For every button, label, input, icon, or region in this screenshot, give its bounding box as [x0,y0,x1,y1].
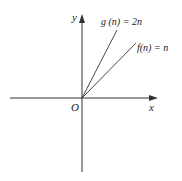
y-axis-label: y [71,11,77,23]
f-function-line [82,43,136,98]
g-function-label: g (n) = 2n [101,16,142,28]
x-axis-label: x [148,101,154,113]
f-function-label: f(n) = n [137,42,168,54]
coordinate-diagram: y x O g (n) = 2n f(n) = n [0,0,182,181]
origin-label: O [71,101,79,113]
y-axis-arrow-icon [79,14,85,23]
g-function-line [82,30,117,98]
